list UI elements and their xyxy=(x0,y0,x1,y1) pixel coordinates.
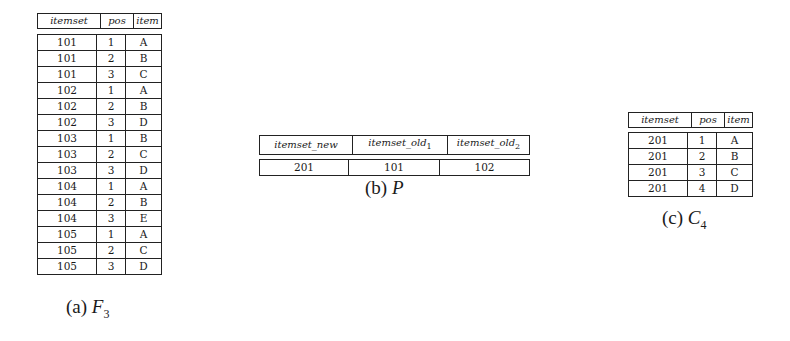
f3-col-itemset: itemset xyxy=(38,14,101,29)
f3-cell: 105 xyxy=(38,243,97,259)
table-row: 1013C xyxy=(38,67,162,83)
f3-cell: A xyxy=(126,83,162,99)
f3-cell: 101 xyxy=(38,67,97,83)
table-row: 1011A xyxy=(38,35,162,51)
f3-cell: 2 xyxy=(97,195,126,211)
p-header-table: itemset_new itemset_old1 itemset_old2 xyxy=(259,135,530,155)
f3-cell: A xyxy=(126,227,162,243)
p-col-itemset-old2: itemset_old2 xyxy=(448,136,530,155)
caption-symbol: F xyxy=(92,296,104,317)
p-cell: 102 xyxy=(440,160,530,176)
f3-cell: 1 xyxy=(97,83,126,99)
p-caption: (b) P xyxy=(365,177,404,199)
c4-col-item: item xyxy=(725,113,753,128)
c4-cell: C xyxy=(717,165,753,181)
caption-subscript: 4 xyxy=(701,218,707,232)
c4-header-table: itemset pos item xyxy=(628,112,753,128)
f3-cell: E xyxy=(126,211,162,227)
f3-cell: 3 xyxy=(97,259,126,275)
f3-cell: 105 xyxy=(38,259,97,275)
c4-cell: 201 xyxy=(629,181,688,197)
f3-cell: 2 xyxy=(97,99,126,115)
table-row: 1012B xyxy=(38,51,162,67)
caption-symbol: C xyxy=(688,207,701,228)
table-row: 2011A xyxy=(629,133,753,149)
table-row: 1053D xyxy=(38,259,162,275)
f3-cell: 104 xyxy=(38,195,97,211)
f3-cell: D xyxy=(126,115,162,131)
f3-body-table: 1011A1012B1013C1021A1022B1023D1031B1032C… xyxy=(37,34,162,275)
c4-col-itemset: itemset xyxy=(629,113,692,128)
f3-cell: 101 xyxy=(38,35,97,51)
f3-cell: D xyxy=(126,259,162,275)
c4-cell: 201 xyxy=(629,149,688,165)
header-subscript: 1 xyxy=(427,142,432,151)
table-row: 1043E xyxy=(38,211,162,227)
f3-cell: B xyxy=(126,131,162,147)
caption-label: (c) xyxy=(662,207,683,228)
table-row: 1042B xyxy=(38,195,162,211)
figure-c4: itemset pos item 2011A2012B2013C2014D xyxy=(628,112,753,197)
table-row: 201 101 102 xyxy=(260,160,530,176)
table-row: 1052C xyxy=(38,243,162,259)
f3-cell: D xyxy=(126,163,162,179)
p-cell: 101 xyxy=(349,160,440,176)
f3-cell: 1 xyxy=(97,35,126,51)
p-body-table: 201 101 102 xyxy=(259,159,530,176)
c4-cell: 4 xyxy=(688,181,717,197)
f3-caption: (a) F3 xyxy=(66,296,109,322)
c4-col-pos: pos xyxy=(692,113,725,128)
f3-cell: 3 xyxy=(97,211,126,227)
f3-col-item: item xyxy=(134,14,162,29)
c4-cell: 2 xyxy=(688,149,717,165)
table-row: 1021A xyxy=(38,83,162,99)
table-row: 1051A xyxy=(38,227,162,243)
f3-cell: 103 xyxy=(38,131,97,147)
c4-cell: D xyxy=(717,181,753,197)
f3-cell: C xyxy=(126,67,162,83)
f3-cell: B xyxy=(126,51,162,67)
f3-cell: 101 xyxy=(38,51,97,67)
caption-label: (a) xyxy=(66,296,87,317)
table-row: 2014D xyxy=(629,181,753,197)
table-row: 1022B xyxy=(38,99,162,115)
f3-cell: 1 xyxy=(97,179,126,195)
f3-cell: A xyxy=(126,179,162,195)
caption-subscript: 3 xyxy=(103,307,109,321)
f3-cell: 102 xyxy=(38,83,97,99)
caption-symbol: P xyxy=(392,177,404,198)
table-row: 2012B xyxy=(629,149,753,165)
table-row: 1041A xyxy=(38,179,162,195)
figure-f3: itemset pos item 1011A1012B1013C1021A102… xyxy=(37,13,162,275)
c4-cell: 3 xyxy=(688,165,717,181)
header-subscript: 2 xyxy=(515,142,520,151)
f3-cell: 102 xyxy=(38,99,97,115)
header-text: itemset_old xyxy=(457,137,515,148)
header-text: itemset_new xyxy=(274,139,338,150)
header-text: itemset_old xyxy=(368,137,426,148)
f3-cell: A xyxy=(126,35,162,51)
table-row: 1031B xyxy=(38,131,162,147)
table-row: 1023D xyxy=(38,115,162,131)
f3-cell: 2 xyxy=(97,147,126,163)
c4-cell: A xyxy=(717,133,753,149)
f3-cell: B xyxy=(126,99,162,115)
f3-cell: B xyxy=(126,195,162,211)
table-row: 1033D xyxy=(38,163,162,179)
p-col-itemset-new: itemset_new xyxy=(260,136,353,155)
f3-cell: 102 xyxy=(38,115,97,131)
c4-cell: B xyxy=(717,149,753,165)
figure-p: itemset_new itemset_old1 itemset_old2 20… xyxy=(259,135,530,176)
f3-cell: 104 xyxy=(38,211,97,227)
table-row: 1032C xyxy=(38,147,162,163)
f3-cell: 105 xyxy=(38,227,97,243)
f3-cell: 103 xyxy=(38,147,97,163)
f3-cell: 3 xyxy=(97,163,126,179)
f3-cell: 3 xyxy=(97,67,126,83)
caption-label: (b) xyxy=(365,177,387,198)
f3-cell: 1 xyxy=(97,131,126,147)
c4-cell: 201 xyxy=(629,133,688,149)
f3-header-table: itemset pos item xyxy=(37,13,162,29)
c4-body-table: 2011A2012B2013C2014D xyxy=(628,132,753,197)
c4-cell: 201 xyxy=(629,165,688,181)
